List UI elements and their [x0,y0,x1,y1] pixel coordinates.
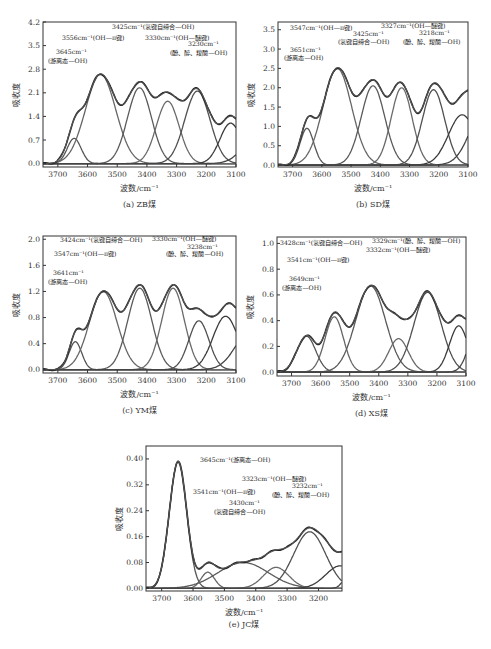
peak-annotation: (游离态—OH) [48,57,87,65]
peak-annotation: 3556cm⁻¹(OH—π键) [62,34,124,42]
y-tick-label: 2.1 [28,88,40,97]
x-axis-label: 波数/cm⁻¹ [354,183,392,193]
peak-annotation: (氢键自缔合—OH) [214,508,265,516]
peak-annotation: (酚、醇、羧酸—OH) [170,49,227,57]
y-tick-label: 0.2 [262,342,274,351]
y-tick-label: 0.0 [262,368,274,377]
panel-caption: (a) ZB煤 [123,199,156,209]
x-tick-label: 3500 [108,170,127,179]
y-tick-label: 0.4 [28,339,40,348]
fitted-peak-curve [43,316,236,369]
measured-spectrum-curve [278,68,468,165]
x-tick-label: 3300 [398,379,417,388]
panel-caption: (e) JC煤 [229,619,260,629]
y-tick-label: 0.32 [126,480,143,489]
y-tick-label: 0.0 [28,365,40,374]
y-tick-label: 0.0 [28,159,40,168]
y-tick-label: 1.6 [28,261,40,270]
x-tick-label: 3500 [108,376,127,385]
x-tick-label: 3600 [183,594,202,603]
chart-panel-b: 37003600350034003300320031000.00.51.01.5… [246,22,478,209]
x-tick-label: 3400 [246,594,265,603]
y-tick-label: 0.6 [262,290,274,299]
peak-annotation: 3238cm⁻¹ [187,243,218,250]
y-axis-label: 吸收度 [246,83,256,107]
x-tick-label: 3500 [215,594,234,603]
peak-annotation: 3430cm⁻¹ [229,499,260,506]
x-tick-label: 3700 [48,376,67,385]
peak-annotation: 3547cm⁻¹(OH—π键) [290,24,352,32]
x-tick-label: 3500 [342,170,361,179]
fitted-peak-curve [277,286,466,372]
x-tick-label: 3300 [400,170,419,179]
fitted-peak-curve [277,339,466,372]
x-tick-label: 3700 [282,379,301,388]
peak-annotation: 3332cm⁻¹(OH—醚键) [366,246,430,254]
x-tick-label: 3100 [458,170,477,179]
peak-annotation: 3645cm⁻¹ [56,48,87,55]
peak-annotation: 3330cm⁻¹(OH—醚键) [152,235,216,243]
x-tick-label: 3400 [137,170,156,179]
x-tick-label: 3200 [197,170,216,179]
plot-area [278,68,468,166]
x-tick-label: 3200 [197,376,216,385]
chart-panel-c: 37003600350034003300320031000.00.40.81.2… [11,235,246,415]
x-tick-label: 3100 [226,376,245,385]
x-tick-label: 3600 [311,379,330,388]
y-tick-label: 3.5 [28,41,40,50]
chart-panel-a: 37003600350034003300320031000.00.71.42.1… [11,18,246,210]
peak-annotation: (游离态—OH) [48,278,87,286]
x-tick-label: 3600 [78,376,97,385]
y-tick-label: 2.8 [28,65,40,74]
fitted-peak-curve [277,317,466,372]
y-tick-label: 2.0 [28,235,40,244]
y-tick-label: 0.40 [126,454,143,463]
x-axis-label: 波数/cm⁻¹ [225,607,263,617]
fitted-peak-curve [278,68,468,165]
y-tick-label: 1.2 [28,287,40,296]
fitted-peak-curve [43,123,236,163]
peak-annotation: 3641cm⁻¹ [53,269,84,276]
x-tick-label: 3700 [152,594,171,603]
peak-annotation: (氢键自缔合—OH) [338,38,389,46]
fitted-peak-curve [146,566,342,589]
peak-annotation: (酚、醇、羧酸—OH) [166,250,223,258]
y-tick-label: 0.0 [263,161,275,170]
x-axis-label: 波数/cm⁻¹ [352,392,390,402]
y-axis-label: 吸收度 [114,507,124,531]
fitted-peak-curve [43,292,236,370]
y-axis-label: 吸收度 [245,295,255,319]
x-axis-label: 波数/cm⁻¹ [120,183,158,193]
plot-area [43,74,236,164]
y-tick-label: 0.5 [263,141,275,150]
y-tick-label: 3.0 [263,45,275,54]
x-tick-label: 3400 [369,379,388,388]
x-tick-label: 3400 [371,170,390,179]
figure-canvas: 37003600350034003300320031000.00.71.42.1… [0,0,491,649]
fitted-peak-curve [43,288,236,370]
peak-annotation: (酚、醇、羧酸—OH) [272,491,329,499]
x-tick-label: 3100 [456,379,475,388]
y-tick-label: 0.4 [262,316,274,325]
peak-annotation: 3424cm⁻¹(氢键自缔合—OH) [60,236,142,244]
fitted-peak-curve [277,336,466,372]
peak-annotation: 3645cm⁻¹(游离态—OH) [200,456,270,464]
x-tick-label: 3100 [226,170,245,179]
x-tick-label: 3300 [278,594,297,603]
y-tick-label: 0.24 [126,506,143,515]
peak-annotation: (酚、醇、羧酸—OH) [403,38,460,46]
x-tick-label: 3200 [427,379,446,388]
measured-spectrum-curve [43,285,236,371]
peak-annotation: 3547cm⁻¹(OH—π键) [54,250,116,258]
peak-annotation: (游离态—OH) [282,284,321,292]
fitted-peak-curve [277,326,466,372]
fitted-sum-curve [43,285,236,370]
y-tick-label: 1.4 [28,112,40,121]
plot-area [277,285,466,372]
y-axis-label: 吸收度 [11,83,21,107]
peak-annotation: 3541cm⁻¹(OH—π键) [287,256,349,264]
x-tick-label: 3200 [429,170,448,179]
y-tick-label: 2.5 [263,64,275,73]
y-tick-label: 0.7 [28,136,40,145]
fitted-peak-curve [278,90,468,165]
